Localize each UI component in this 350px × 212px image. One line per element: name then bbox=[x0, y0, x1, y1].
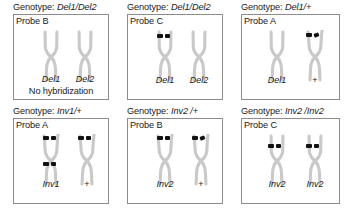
genotype-prefix: Genotype: bbox=[127, 106, 171, 116]
chromosome-label-left: Del1 bbox=[150, 74, 180, 86]
genotype-prefix: Genotype: bbox=[241, 2, 285, 12]
panel-box: Probe C Inv2 Inv2 bbox=[241, 118, 340, 204]
probe-label: Probe C bbox=[130, 15, 163, 27]
chromosome-label-left: Inv2 bbox=[262, 178, 292, 190]
genotype-value: Del1/Del2 bbox=[57, 2, 96, 12]
genotype-value: Inv2 /+ bbox=[171, 106, 198, 116]
panel-box: Probe B Del1 Del2 No hybridization bbox=[13, 14, 109, 100]
chromosome-label-left: Del1 bbox=[262, 74, 292, 86]
genotype-heading: Genotype: Del1/+ bbox=[241, 2, 349, 14]
chromosome-label-left: Del1 bbox=[36, 73, 66, 85]
probe-label: Probe A bbox=[16, 119, 48, 131]
genotype-value: Inv2 /Inv2 bbox=[285, 106, 324, 116]
panel-grid: Genotype: Del1/Del2 Probe B Del1 Del2 No… bbox=[3, 1, 349, 209]
fish-genotype-figure: Genotype: Del1/Del2 Probe B Del1 Del2 No… bbox=[0, 0, 350, 212]
panel-del1-wt-probe-a: Genotype: Del1/+ Probe A Del1 + bbox=[231, 1, 349, 105]
chromosome-label-left: Inv2 bbox=[150, 178, 180, 190]
probe-label: Probe A bbox=[244, 15, 276, 27]
probe-label: Probe B bbox=[16, 15, 49, 27]
panel-del1-del2-probe-c: Genotype: Del1/Del2 Probe C Del1 Del2 bbox=[117, 1, 231, 105]
genotype-prefix: Genotype: bbox=[13, 2, 57, 12]
chromosome-label-right: Inv2 bbox=[300, 178, 330, 190]
fish-signal-left-top bbox=[157, 136, 172, 141]
chromosome-label-right: Del2 bbox=[184, 74, 214, 86]
genotype-heading: Genotype: Del1/Del2 bbox=[127, 2, 231, 14]
panel-box: Probe A Inv1 + bbox=[13, 118, 109, 204]
genotype-heading: Genotype: Inv2 /+ bbox=[127, 106, 231, 118]
fish-signal-right-top bbox=[306, 33, 321, 38]
fish-signal-left-top bbox=[157, 34, 172, 39]
fish-signal-right-top bbox=[192, 136, 207, 141]
panel-footnote: No hybridization bbox=[14, 85, 108, 97]
fish-signal-right-mid bbox=[306, 144, 321, 149]
genotype-heading: Genotype: Inv2 /Inv2 bbox=[241, 106, 349, 118]
panel-inv2-inv2-probe-c: Genotype: Inv2 /Inv2 Probe C Inv2 Inv2 bbox=[231, 105, 349, 209]
chromosome-labels: Inv2 + bbox=[128, 178, 222, 190]
fish-signal-left-lower bbox=[43, 162, 58, 167]
genotype-value: Del1/Del2 bbox=[171, 2, 210, 12]
genotype-prefix: Genotype: bbox=[13, 106, 57, 116]
chromosome-labels: Del1 Del2 bbox=[128, 74, 222, 86]
fish-signal-left-mid bbox=[268, 144, 283, 149]
genotype-prefix: Genotype: bbox=[127, 2, 171, 12]
chromosome-labels: Inv1 + bbox=[14, 178, 108, 190]
panel-box: Probe B Inv2 + bbox=[127, 118, 223, 204]
fish-signal-left-top bbox=[43, 136, 58, 141]
chromosome-labels: Del1 + bbox=[242, 74, 339, 86]
chromosome-labels: Del1 Del2 bbox=[14, 73, 108, 85]
chromosome-label-left: Inv1 bbox=[36, 178, 66, 190]
panel-del1-del2-probe-b: Genotype: Del1/Del2 Probe B Del1 Del2 No… bbox=[3, 1, 117, 105]
panel-box: Probe C Del1 Del2 bbox=[127, 14, 223, 100]
panel-inv1-wt-probe-a: Genotype: Inv1/+ Probe A Inv1 + bbox=[3, 105, 117, 209]
genotype-prefix: Genotype: bbox=[241, 106, 285, 116]
chromosome-label-right: + bbox=[186, 178, 216, 190]
genotype-heading: Genotype: Del1/Del2 bbox=[13, 2, 117, 14]
probe-label: Probe B bbox=[130, 119, 163, 131]
panel-inv2-wt-probe-b: Genotype: Inv2 /+ Probe B Inv2 + bbox=[117, 105, 231, 209]
chromosome-labels: Inv2 Inv2 bbox=[242, 178, 339, 190]
panel-box: Probe A Del1 + bbox=[241, 14, 340, 100]
genotype-heading: Genotype: Inv1/+ bbox=[13, 106, 117, 118]
chromosome-label-right: + bbox=[72, 178, 102, 190]
fish-signal-right-top bbox=[78, 136, 93, 141]
chromosome-label-right: Del2 bbox=[70, 73, 100, 85]
probe-label: Probe C bbox=[244, 119, 277, 131]
genotype-value: Inv1/+ bbox=[57, 106, 82, 116]
genotype-value: Del1/+ bbox=[285, 2, 311, 12]
chromosome-label-right: + bbox=[300, 74, 330, 86]
